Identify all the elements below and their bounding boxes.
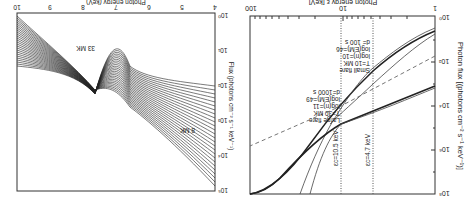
svg-text:d=1000 s: d=1000 s — [312, 89, 340, 96]
y-tick-label: 10⁶ — [439, 146, 450, 153]
svg-text:10²: 10² — [217, 82, 227, 89]
x-tick-label: 100 — [245, 5, 257, 12]
x-axis-label: Photon energy (keV) — [86, 0, 146, 6]
svg-text:4: 4 — [213, 4, 217, 11]
photon-flux-chart: 10⁸ 10⁶ 10⁴ 10² 10⁰ Photon flux [(photon… — [235, 0, 470, 206]
svg-text:log(EM)=49: log(EM)=49 — [306, 95, 340, 103]
y-tick-label: 10² — [438, 58, 449, 65]
y-axis: 10⁸ 10⁶ 10⁴ 10² 10⁰ — [431, 14, 450, 197]
svg-text:log(n)=10: log(n)=10 — [342, 52, 370, 60]
thermal-spectrum-line — [17, 54, 215, 98]
svg-text:6: 6 — [147, 4, 151, 11]
svg-text:9: 9 — [48, 4, 52, 11]
svg-text:10⁵: 10⁵ — [218, 187, 228, 194]
svg-text:10: 10 — [13, 4, 21, 11]
x-axis-label: Photon energy ε [keV] — [309, 0, 378, 6]
svg-text:10¹: 10¹ — [217, 47, 227, 54]
svg-text:10⁰: 10⁰ — [218, 12, 228, 19]
svg-text:5: 5 — [180, 4, 184, 11]
thermal-spectra-family — [17, 16, 215, 186]
y-tick-label: 10⁸ — [439, 190, 450, 197]
svg-text:log(EM)=46: log(EM)=46 — [336, 45, 370, 53]
label-8mk: 8 MK — [179, 127, 195, 134]
svg-text:T=30 MK: T=30 MK — [313, 110, 340, 117]
svg-text:10⁴: 10⁴ — [218, 152, 228, 159]
svg-text:T=10 MK: T=10 MK — [343, 60, 370, 67]
svg-text:8: 8 — [81, 4, 85, 11]
y-tick-label: 10⁴ — [439, 102, 450, 109]
figure-rotated: 10⁸ 10⁶ 10⁴ 10² 10⁰ Photon flux [(photon… — [0, 0, 470, 206]
svg-text:log(n)=11: log(n)=11 — [312, 102, 340, 110]
y-axis-label: Photon flux [(photons cm⁻² s⁻¹ keV⁻¹)] — [456, 42, 465, 170]
thermal-spectrum-line — [17, 16, 215, 186]
y-tick-label: 10⁰ — [439, 14, 450, 21]
cutoff-label-10.5: εc=10.5 keV — [332, 130, 339, 166]
large-flare-annotation: Large flare T=30 MK log(n)=11 log(EM)=49… — [306, 89, 340, 124]
x-tick-label: 10 — [339, 5, 347, 12]
x-tick-label: 1 — [433, 5, 437, 12]
y-axis-label: Flux (photons cm⁻² s⁻¹ keV⁻¹) — [227, 62, 235, 151]
label-33mk: 33 MK — [76, 45, 95, 52]
thermal-spectra-chart: 10⁵ 10⁴ 10³ 10² 10¹ 10⁰ Flux (photons cm… — [0, 0, 235, 206]
svg-text:d= 100 s: d= 100 s — [344, 39, 370, 46]
cutoff-label-4.7: εc=4.7 keV — [364, 133, 371, 166]
svg-text:Small flare: Small flare — [339, 67, 370, 74]
plot-frame — [17, 13, 215, 191]
svg-text:Large flare: Large flare — [309, 116, 340, 124]
svg-text:10³: 10³ — [217, 117, 227, 124]
y-axis: 10⁵ 10⁴ 10³ 10² 10¹ 10⁰ — [217, 12, 228, 194]
